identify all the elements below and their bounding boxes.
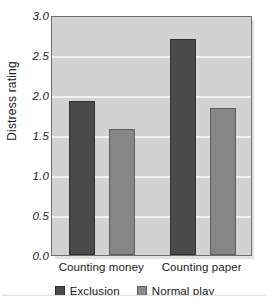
y-axis-title: Distress rating [5,46,19,156]
gridline [52,56,251,58]
bar-normal-play-counting-money [109,129,135,255]
bar-exclusion-counting-money [69,101,95,255]
gridline [52,96,251,98]
y-tick-label: 3.0 [3,10,49,22]
x-tick-label: Counting paper [142,261,262,273]
bar-exclusion-counting-paper [170,39,196,255]
plot-area [51,16,252,256]
cropped-title-remnant [30,1,240,8]
y-tick-label: 0.5 [3,210,49,222]
y-tick-label: 1.0 [3,170,49,182]
bar-normal-play-counting-paper [210,108,236,255]
page-edge-decoration [2,295,267,307]
bar-chart-figure: 0.00.51.01.52.02.53.0 Distress rating Co… [0,0,269,307]
